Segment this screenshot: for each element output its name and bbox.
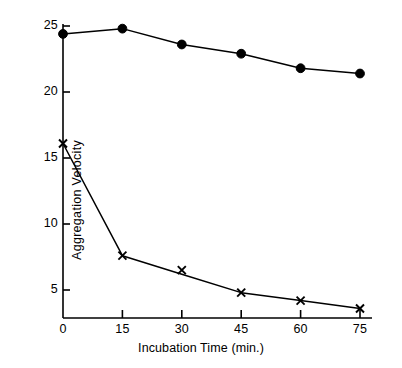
plot-area [0,0,402,368]
series-polyline-filled-circle-series [63,29,360,74]
data-point-circle [237,49,246,58]
data-point-circle [356,69,365,78]
y-tick-label: 10 [18,216,58,230]
x-tick-label: 60 [276,322,326,336]
data-point-circle [177,40,186,49]
y-tick-label: 20 [18,84,58,98]
data-point-circle [118,24,127,33]
series-lines [63,29,360,309]
y-axis-ticks [63,26,70,290]
chart-figure: 510152025 01530456075 Incubation Time (m… [0,0,402,368]
x-tick-label: 75 [335,322,385,336]
y-tick-label: 15 [18,150,58,164]
x-axis-ticks [122,310,360,318]
x-tick-label: 0 [38,322,88,336]
x-tick-label: 15 [97,322,147,336]
y-tick-label: 25 [18,18,58,32]
data-point-circle [59,30,68,39]
x-tick-label: 30 [157,322,207,336]
series-polyline-cross-marker-series [63,143,360,308]
y-tick-label: 5 [18,282,58,296]
x-tick-label: 45 [216,322,266,336]
x-axis-title: Incubation Time (min.) [0,341,402,355]
data-point-cross [118,252,126,260]
y-axis-title: Aggregation Velocity [70,100,84,300]
series-markers [59,24,365,312]
data-point-circle [296,64,305,73]
data-point-cross [178,266,186,274]
